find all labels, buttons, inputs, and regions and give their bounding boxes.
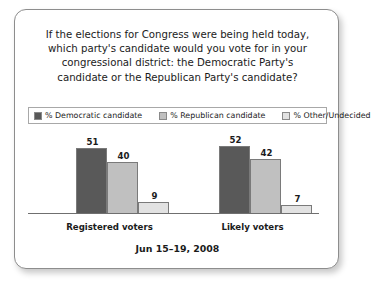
x-axis-label-likely-voters: Likely voters [206,222,299,232]
bar-likely-democratic: 52 [219,146,250,214]
legend-swatch-democratic [34,112,42,120]
poll-result-card: If the elections for Congress were being… [14,9,339,269]
bar-value-registered-democratic: 51 [77,137,108,149]
bar-group-likely-voters: 52 42 7 [219,136,312,214]
survey-date: Jun 15–19, 2008 [31,243,324,254]
legend-swatch-republican [159,112,167,120]
chart-legend: % Democratic candidate % Republican cand… [28,107,327,124]
question-title-line-1: If the elections for Congress were being… [31,28,324,42]
legend-item-republican: % Republican candidate [159,111,265,120]
legend-label-republican: % Republican candidate [170,111,265,120]
legend-label-other: % Other/Undecided [293,111,370,120]
bar-group-registered-voters: 51 40 9 [76,136,169,214]
question-title: If the elections for Congress were being… [31,28,324,85]
question-title-line-3: congressional district: the Democratic P… [31,56,324,70]
bar-value-likely-republican: 42 [251,148,282,160]
bar-likely-republican: 42 [250,159,281,214]
chart-baseline-axis [28,213,319,214]
bar-value-likely-democratic: 52 [220,135,251,147]
legend-label-democratic: % Democratic candidate [45,111,142,120]
bar-chart-plot-area: 51 40 9 52 42 7 [28,136,327,214]
legend-item-other: % Other/Undecided [282,111,370,120]
question-title-line-2: which party's candidate would you vote f… [31,42,324,56]
bar-registered-republican: 40 [107,162,138,214]
bar-value-registered-other: 9 [139,191,170,203]
x-axis-label-registered-voters: Registered voters [63,222,156,232]
question-title-line-4: candidate or the Republican Party's cand… [31,71,324,85]
bar-value-registered-republican: 40 [108,151,139,163]
bar-registered-democratic: 51 [76,148,107,214]
legend-item-democratic: % Democratic candidate [34,111,142,120]
bar-value-likely-other: 7 [282,194,313,206]
legend-swatch-other [282,112,290,120]
